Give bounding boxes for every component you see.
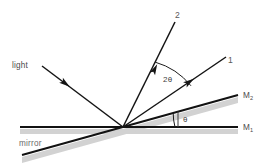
- ray-diagram-canvas: light mirror 2 1 M2 M1 2θ θ: [0, 0, 273, 168]
- svg-text:M2: M2: [243, 91, 253, 101]
- ray-2-label: 2: [175, 10, 180, 20]
- optics-diagram: light mirror 2 1 M2 M1 2θ θ: [0, 0, 273, 168]
- mirror-2-label-sub: 2: [250, 95, 253, 101]
- mirror-shadows: [20, 97, 238, 163]
- mirror-1-label-sub: 1: [250, 127, 253, 133]
- mirror-2-label-letter: M: [243, 91, 250, 100]
- mirror-2-line: [22, 95, 238, 155]
- mirror-2-label: M2: [243, 91, 253, 101]
- mirror-1-label: M1: [243, 123, 253, 133]
- mirror-label: mirror: [19, 139, 42, 148]
- mirror-1-label-letter: M: [243, 123, 250, 132]
- light-label: light: [12, 61, 29, 70]
- incident-light-ray: [42, 66, 123, 127]
- reflected-ray-1-arrowhead: [183, 76, 196, 87]
- svg-text:M1: M1: [243, 123, 253, 133]
- ray-1-label: 1: [228, 55, 233, 65]
- angle-theta-label: θ: [183, 115, 188, 124]
- angle-two-theta-label: 2θ: [163, 75, 173, 84]
